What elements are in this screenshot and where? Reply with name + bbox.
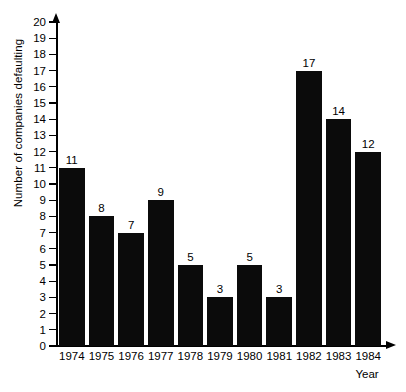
x-axis-title: Year	[344, 368, 390, 380]
y-axis-tick-label-text: 17	[10, 65, 46, 77]
bar-value-label: 11	[57, 154, 87, 166]
bar-value-label: 8	[87, 202, 117, 214]
y-axis-tick	[49, 135, 57, 136]
y-axis-tick-label-text: 8	[10, 210, 46, 222]
bar-value-label: 14	[324, 105, 354, 117]
y-axis-tick-label: 8	[8, 210, 46, 222]
x-axis-tick-label: 1981	[264, 350, 294, 363]
bar-value-label: 12	[353, 138, 383, 150]
bar-slot: 3	[264, 22, 294, 346]
y-axis-tick-label-text: 9	[10, 194, 46, 206]
y-axis-tick-label: 16	[8, 81, 46, 93]
y-axis-tick	[49, 167, 57, 168]
y-axis-tick	[49, 248, 57, 249]
x-axis-tick-label: 1980	[235, 350, 265, 363]
bar[interactable]	[296, 71, 322, 346]
y-axis-tick-label-text: 10	[10, 178, 46, 190]
bar[interactable]	[266, 297, 292, 346]
x-axis-arrow-icon	[386, 341, 396, 349]
y-axis-tick	[49, 119, 57, 120]
y-axis-tick-label-text: 20	[10, 16, 46, 28]
y-axis-tick-label: 3	[8, 291, 46, 303]
y-axis-tick	[49, 345, 57, 346]
y-axis-tick-label-text: 2	[10, 308, 46, 320]
y-axis-tick-label-text: 3	[10, 291, 46, 303]
bar-value-label: 5	[176, 251, 206, 263]
y-axis-tick-label: 17	[8, 65, 46, 77]
bar-value-label: 3	[205, 283, 235, 295]
y-axis-tick-label: 7	[8, 227, 46, 239]
y-axis-tick	[49, 21, 57, 22]
y-axis-tick-label-text: 1	[10, 324, 46, 336]
y-axis-tick	[49, 264, 57, 265]
bar[interactable]	[148, 200, 174, 346]
bar[interactable]	[207, 297, 233, 346]
bar-slot: 5	[235, 22, 265, 346]
y-axis-tick-label: 1	[8, 324, 46, 336]
y-axis-tick-label: 6	[8, 243, 46, 255]
plot-area: 118795353171412	[57, 22, 383, 346]
y-axis-tick-label: 0	[8, 340, 46, 352]
bar[interactable]	[178, 265, 204, 346]
y-axis-tick-label: 14	[8, 113, 46, 125]
y-axis-tick-label: 13	[8, 129, 46, 141]
y-axis-tick-label-text: 0	[10, 340, 46, 352]
bar-chart: Number of companies defaulting 012345678…	[0, 0, 406, 392]
y-axis-tick	[49, 38, 57, 39]
y-axis-tick-label-text: 6	[10, 243, 46, 255]
bar-slot: 14	[324, 22, 354, 346]
y-axis-tick-label: 12	[8, 146, 46, 158]
bar[interactable]	[118, 233, 144, 346]
bar-slot: 11	[57, 22, 87, 346]
bar[interactable]	[89, 216, 115, 346]
x-axis-tick-label: 1978	[176, 350, 206, 363]
bar-slot: 7	[116, 22, 146, 346]
y-axis-tick-label: 11	[8, 162, 46, 174]
bar-slot: 5	[176, 22, 206, 346]
y-axis-tick-label-text: 5	[10, 259, 46, 271]
x-axis-tick-label: 1979	[205, 350, 235, 363]
bar-value-label: 17	[294, 57, 324, 69]
y-axis-tick-label-text: 11	[10, 162, 46, 174]
y-axis-tick	[49, 329, 57, 330]
y-axis-tick-label: 15	[8, 97, 46, 109]
y-axis-tick-label-text: 12	[10, 146, 46, 158]
y-axis-tick-label-text: 19	[10, 32, 46, 44]
x-axis-tick-label: 1977	[146, 350, 176, 363]
x-axis-tick-label: 1974	[57, 350, 87, 363]
y-axis-tick-label: 9	[8, 194, 46, 206]
y-axis-tick	[49, 102, 57, 103]
y-axis-tick-label-text: 13	[10, 129, 46, 141]
y-axis-tick	[49, 86, 57, 87]
bar[interactable]	[326, 119, 352, 346]
y-axis-tick-label: 4	[8, 275, 46, 287]
bar[interactable]	[355, 152, 381, 346]
bar-value-label: 5	[235, 251, 265, 263]
y-axis-tick-label-text: 7	[10, 227, 46, 239]
y-axis-tick	[49, 281, 57, 282]
y-axis-tick	[49, 183, 57, 184]
y-axis-tick-label: 18	[8, 48, 46, 60]
bar[interactable]	[59, 168, 85, 346]
y-axis-tick-label: 20	[8, 16, 46, 28]
x-axis-tick-label: 1976	[116, 350, 146, 363]
bar[interactable]	[237, 265, 263, 346]
bar-value-label: 7	[116, 219, 146, 231]
y-axis-tick	[49, 70, 57, 71]
x-axis-tick-label: 1982	[294, 350, 324, 363]
y-axis-tick	[49, 232, 57, 233]
bar-slot: 17	[294, 22, 324, 346]
bar-slot: 12	[353, 22, 383, 346]
y-axis-tick	[49, 151, 57, 152]
y-axis-tick	[49, 200, 57, 201]
x-axis-tick-label: 1984	[353, 350, 383, 363]
y-axis-tick-label-text: 18	[10, 48, 46, 60]
y-axis-tick-label: 10	[8, 178, 46, 190]
y-axis-tick-label: 19	[8, 32, 46, 44]
x-axis-tick-label: 1975	[87, 350, 117, 363]
bar-slot: 8	[87, 22, 117, 346]
x-axis-tick-label: 1983	[324, 350, 354, 363]
y-axis-tick-label-text: 14	[10, 113, 46, 125]
y-axis-tick-label-text: 4	[10, 275, 46, 287]
y-axis-tick-label: 2	[8, 308, 46, 320]
